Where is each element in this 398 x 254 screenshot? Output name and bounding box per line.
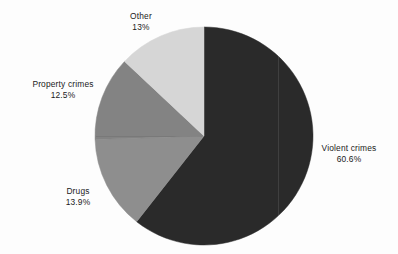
pie-label-property-crimes: Property crimes 12.5%: [9, 79, 117, 101]
pie-label-property-crimes-value: 12.5%: [9, 90, 117, 101]
pie-label-drugs: Drugs 13.9%: [41, 186, 115, 208]
pie-label-other-name: Other: [104, 11, 178, 22]
pie-label-violent-crimes-value: 60.6%: [303, 154, 395, 165]
pie-label-violent-crimes: Violent crimes 60.6%: [303, 143, 395, 165]
pie-chart-svg: [0, 0, 398, 254]
pie-label-property-crimes-name: Property crimes: [9, 79, 117, 90]
pie-label-other-value: 13%: [104, 22, 178, 33]
pie-slice-group: [95, 27, 313, 245]
pie-label-drugs-name: Drugs: [41, 186, 115, 197]
pie-label-drugs-value: 13.9%: [41, 197, 115, 208]
pie-label-other: Other 13%: [104, 11, 178, 33]
pie-label-violent-crimes-name: Violent crimes: [303, 143, 395, 154]
pie-chart: Other 13% Property crimes 12.5% Drugs 13…: [0, 0, 398, 254]
